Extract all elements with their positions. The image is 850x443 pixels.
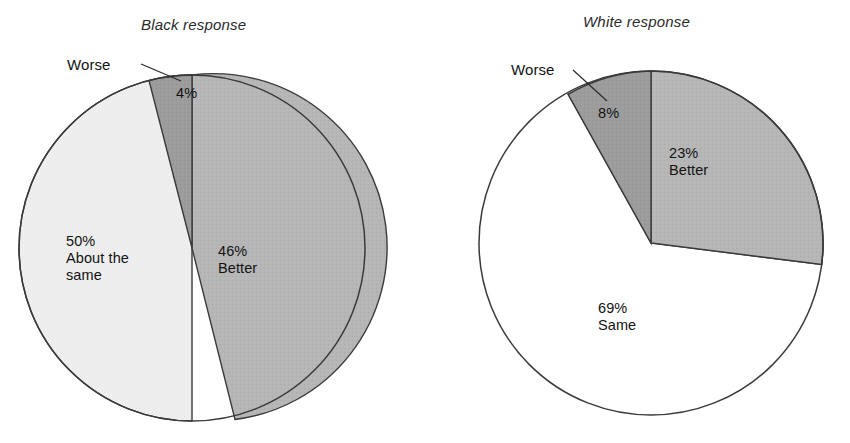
right-worse-value-label: 8% — [598, 105, 619, 122]
pie-charts-svg — [0, 0, 850, 443]
figure-canvas: Black response White response Worse 4% 4… — [0, 0, 850, 443]
slice-right-worse[interactable] — [568, 71, 651, 243]
left-better-label: 46% Better — [218, 243, 257, 277]
chart-title-black-response: Black response — [141, 16, 246, 33]
left-about-the-same-label: 50% About the same — [66, 233, 129, 284]
right-worse-callout-label: Worse — [511, 61, 555, 78]
chart-title-white-response: White response — [583, 13, 690, 30]
left-worse-callout-label: Worse — [67, 56, 111, 73]
right-better-label: 23% Better — [669, 145, 708, 179]
right-same-label: 69% Same — [598, 300, 636, 334]
left-worse-value-label: 4% — [176, 85, 197, 102]
